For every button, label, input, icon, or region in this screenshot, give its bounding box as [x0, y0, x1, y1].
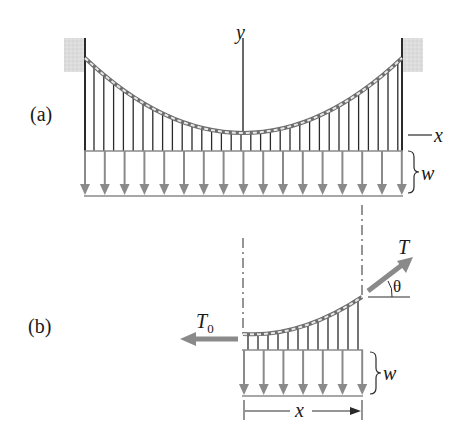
tension-T-label: T	[398, 237, 409, 257]
x-axis-label: x	[434, 125, 443, 145]
hangers	[94, 62, 398, 151]
span-label: x	[295, 400, 304, 420]
angle-arc	[388, 281, 392, 297]
distributed-load-arrows	[80, 151, 407, 195]
cable-segment	[243, 297, 362, 334]
y-axis-label: y	[236, 22, 245, 42]
part-b	[180, 225, 413, 420]
suspension-cable-diagram	[0, 0, 468, 442]
angle-theta-label: θ	[393, 278, 401, 295]
part-a	[64, 38, 432, 225]
right-support-wall	[403, 38, 423, 72]
subscript-0: 0	[207, 321, 214, 336]
load-brace	[408, 151, 419, 193]
left-support-wall	[64, 38, 84, 72]
load-brace	[370, 352, 381, 394]
load-label-a: w	[421, 163, 434, 183]
part-b-label: (b)	[28, 316, 51, 336]
load-label-b: w	[383, 363, 396, 383]
part-a-label: (a)	[30, 104, 52, 124]
distributed-load-arrows	[239, 350, 367, 395]
tension-T0-label: T0	[196, 311, 214, 335]
